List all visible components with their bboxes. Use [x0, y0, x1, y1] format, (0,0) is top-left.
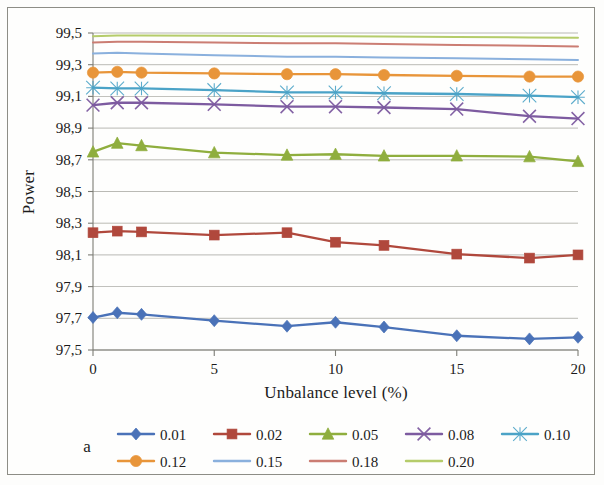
- data-point: [524, 71, 535, 82]
- data-point: [137, 227, 147, 237]
- series-0-20: [93, 35, 578, 37]
- marker-asterisk: [571, 90, 585, 104]
- data-point: [136, 67, 147, 78]
- marker-circle: [281, 69, 292, 80]
- marker-diamond: [452, 330, 462, 342]
- marker-square: [282, 228, 292, 238]
- marker-square: [137, 227, 147, 237]
- data-point: [207, 83, 221, 97]
- marker-circle: [112, 66, 123, 77]
- data-point: [209, 315, 219, 327]
- marker-square: [209, 230, 219, 240]
- y-tick-labels-group: 97,597,797,998,198,398,598,798,999,199,3…: [56, 25, 83, 358]
- data-point: [112, 307, 122, 319]
- page-root: 97,597,797,998,198,398,598,798,999,199,3…: [0, 0, 604, 485]
- marker-square: [331, 237, 341, 247]
- legend-item-0-12[interactable]: 0.12: [118, 454, 186, 470]
- data-point: [282, 228, 292, 238]
- marker-diamond: [379, 321, 389, 333]
- tickmarks-group: [88, 33, 578, 356]
- series-line: [93, 42, 578, 47]
- series-group: [86, 35, 585, 345]
- marker-asterisk: [110, 82, 124, 96]
- marker-asterisk: [450, 87, 464, 101]
- data-point: [86, 81, 100, 95]
- series-0-05: [87, 137, 584, 167]
- data-point: [227, 429, 237, 439]
- y-tick-label: 98,1: [56, 247, 82, 263]
- data-point: [280, 86, 294, 100]
- data-point: [135, 82, 149, 96]
- y-tick-label: 99,3: [56, 57, 82, 73]
- marker-square: [452, 249, 462, 259]
- marker-asterisk: [513, 427, 527, 441]
- legend-label: 0.10: [544, 427, 570, 443]
- series-0-12: [87, 66, 583, 82]
- legend-item-0-05[interactable]: 0.05: [310, 427, 378, 443]
- data-point: [378, 69, 389, 80]
- data-point: [523, 89, 537, 103]
- x-tick-label: 5: [211, 361, 219, 377]
- y-tick-label: 99,5: [56, 25, 82, 41]
- legend-item-0-10[interactable]: 0.10: [502, 427, 570, 443]
- x-tick-labels-group: 05101520: [89, 361, 585, 377]
- marker-circle: [378, 69, 389, 80]
- y-tick-label: 97,9: [56, 279, 82, 295]
- legend-group: 0.010.020.050.080.100.120.150.180.20: [118, 427, 570, 470]
- data-point: [377, 86, 391, 100]
- marker-square: [525, 253, 535, 263]
- legend-item-0-15[interactable]: 0.15: [214, 454, 282, 470]
- series-0-08: [87, 96, 585, 125]
- y-tick-label: 98,7: [56, 152, 83, 168]
- data-point: [573, 250, 583, 260]
- data-point: [452, 249, 462, 259]
- data-point: [281, 69, 292, 80]
- legend-item-0-18[interactable]: 0.18: [310, 454, 378, 470]
- chart-svg: 97,597,797,998,198,398,598,798,999,199,3…: [0, 0, 604, 485]
- data-point: [513, 427, 527, 441]
- legend-item-0-20[interactable]: 0.20: [406, 454, 474, 470]
- legend-item-0-01[interactable]: 0.01: [118, 427, 186, 443]
- data-point: [112, 226, 122, 236]
- legend-item-0-08[interactable]: 0.08: [406, 427, 474, 443]
- series-line: [93, 53, 578, 60]
- marker-diamond: [524, 333, 534, 345]
- data-point: [450, 87, 464, 101]
- data-point: [331, 237, 341, 247]
- marker-diamond: [209, 315, 219, 327]
- marker-circle: [130, 455, 141, 466]
- y-tick-label: 99,1: [56, 88, 82, 104]
- series-line: [93, 103, 578, 119]
- data-point: [379, 240, 389, 250]
- data-point: [572, 71, 583, 82]
- data-point: [130, 455, 141, 466]
- marker-diamond: [573, 331, 583, 343]
- legend-label: 0.08: [448, 427, 474, 443]
- x-tick-label: 15: [449, 361, 464, 377]
- legend-label: 0.18: [352, 454, 378, 470]
- data-point: [573, 331, 583, 343]
- legend-item-0-02[interactable]: 0.02: [214, 427, 282, 443]
- y-tick-label: 98,5: [56, 184, 82, 200]
- gridlines-group: [93, 33, 578, 350]
- data-point: [330, 69, 341, 80]
- data-point: [88, 228, 98, 238]
- data-point: [131, 428, 141, 440]
- marker-diamond: [131, 428, 141, 440]
- legend-label: 0.20: [448, 454, 474, 470]
- marker-square: [573, 250, 583, 260]
- data-point: [524, 333, 534, 345]
- marker-square: [227, 429, 237, 439]
- data-point: [282, 320, 292, 332]
- marker-diamond: [112, 307, 122, 319]
- data-point: [329, 86, 343, 100]
- y-tick-label: 97,5: [56, 342, 82, 358]
- marker-circle: [87, 67, 98, 78]
- marker-square: [379, 240, 389, 250]
- series-0-02: [88, 226, 583, 263]
- marker-circle: [451, 70, 462, 81]
- y-axis-title: Power: [19, 170, 38, 215]
- data-point: [451, 70, 462, 81]
- x-axis-title: Unbalance level (%): [264, 383, 408, 402]
- marker-asterisk: [86, 81, 100, 95]
